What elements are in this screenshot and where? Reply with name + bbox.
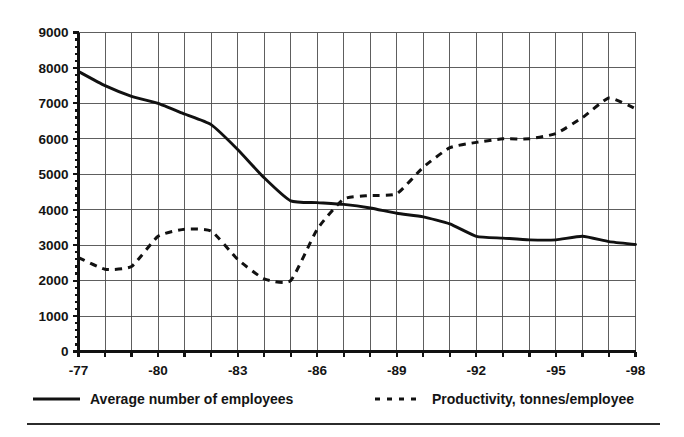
legend-label: Average number of employees: [90, 391, 294, 407]
x-axis-tick-label: -77: [69, 363, 89, 378]
chart-figure: 0100020003000400050006000700080009000 -7…: [0, 0, 684, 437]
line-chart: 0100020003000400050006000700080009000 -7…: [0, 0, 684, 437]
x-axis-tick-label: -98: [626, 363, 646, 378]
y-axis-tick-label: 7000: [38, 96, 68, 111]
chart-background: [0, 0, 684, 437]
y-axis-tick-label: 4000: [38, 203, 68, 218]
y-axis-tick-label: 3000: [38, 238, 68, 253]
x-axis-tick-label: -95: [546, 363, 566, 378]
y-axis-tick-label: 6000: [38, 132, 68, 147]
x-axis-tick-label: -92: [467, 363, 487, 378]
y-axis-tick-label: 8000: [38, 61, 68, 76]
x-axis-tick-label: -83: [228, 363, 248, 378]
x-axis-tick-label: -89: [387, 363, 407, 378]
y-axis-tick-label: 2000: [38, 273, 68, 288]
y-axis-tick-label: 0: [61, 344, 69, 359]
x-axis-tick-label: -80: [148, 363, 168, 378]
legend-label: Productivity, tonnes/employee: [432, 391, 634, 407]
y-axis-tick-label: 5000: [38, 167, 68, 182]
x-axis-tick-label: -86: [307, 363, 327, 378]
y-axis-tick-label: 1000: [38, 309, 68, 324]
y-axis-tick-label: 9000: [38, 25, 68, 40]
